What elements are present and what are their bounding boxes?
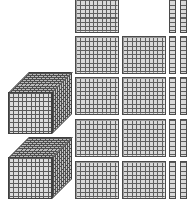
hundred-flat[interactable]	[75, 0, 119, 33]
hundred-flat[interactable]	[75, 77, 119, 115]
hundred-flat[interactable]	[75, 119, 119, 157]
base-ten-blocks-canvas	[0, 0, 192, 205]
ten-rod[interactable]	[180, 119, 187, 157]
ten-rod[interactable]	[169, 0, 176, 33]
ten-rod[interactable]	[180, 161, 187, 199]
thousand-cube[interactable]	[8, 72, 72, 134]
ten-rod[interactable]	[169, 77, 176, 115]
cube-face-front	[8, 92, 52, 134]
hundred-flat[interactable]	[75, 36, 119, 74]
hundred-flat[interactable]	[75, 161, 119, 199]
cube-face-front	[8, 157, 52, 199]
hundred-flat[interactable]	[122, 77, 166, 115]
hundred-flat[interactable]	[122, 161, 166, 199]
thousand-cube[interactable]	[8, 137, 72, 199]
ten-rod[interactable]	[180, 77, 187, 115]
hundred-flat[interactable]	[122, 36, 166, 74]
ten-rod[interactable]	[180, 0, 187, 33]
ten-rod[interactable]	[169, 119, 176, 157]
ten-rod[interactable]	[169, 36, 176, 74]
ten-rod[interactable]	[180, 36, 187, 74]
ten-rod[interactable]	[169, 161, 176, 199]
hundred-flat[interactable]	[122, 119, 166, 157]
